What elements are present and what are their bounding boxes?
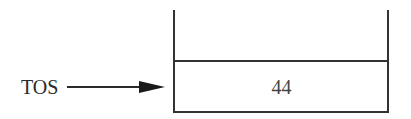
stack-diagram-graphic	[0, 0, 411, 119]
stack-cell-top: 44	[175, 76, 388, 98]
arrow-head-icon	[139, 81, 165, 93]
stack-diagram: TOS 44	[0, 0, 411, 119]
tos-arrow	[67, 81, 165, 93]
tos-label: TOS	[21, 76, 58, 98]
